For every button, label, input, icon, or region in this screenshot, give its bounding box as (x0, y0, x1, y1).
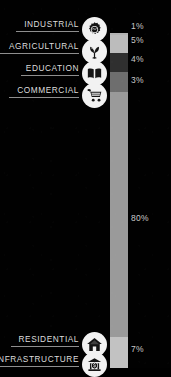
legend-rule-commercial (9, 97, 79, 98)
bar-segment-infrastructure (110, 337, 128, 368)
legend-item-education[interactable]: EDUCATION (0, 61, 108, 85)
bar-segment-residential (110, 92, 128, 337)
legend-rule-industrial (16, 31, 79, 32)
legend-item-agricultural[interactable]: AGRICULTURAL (0, 39, 108, 63)
legend-item-commercial[interactable]: COMMERCIAL (0, 83, 108, 107)
value-label-industrial: 1% (131, 22, 144, 31)
legend-rule-infrastructure (0, 366, 79, 367)
legend-rule-education (21, 75, 79, 76)
legend-item-infrastructure[interactable]: INFRASTRUCTURE (0, 352, 108, 376)
value-label-agricultural: 5% (131, 36, 144, 45)
value-label-infrastructure: 7% (131, 345, 144, 354)
value-label-education: 4% (131, 55, 144, 64)
legend-label-commercial: COMMERCIAL (17, 85, 79, 95)
legend-label-agricultural: AGRICULTURAL (9, 41, 79, 51)
value-label-commercial: 3% (131, 76, 144, 85)
value-label-residential: 80% (131, 214, 149, 223)
infrastructure-icon (82, 352, 107, 377)
legend-rule-residential (11, 346, 79, 347)
stacked-bar-chart (110, 33, 128, 368)
legend-label-infrastructure: INFRASTRUCTURE (0, 354, 79, 364)
bar-segment-agricultural (110, 35, 128, 53)
bar-segment-commercial (110, 72, 128, 92)
legend-item-industrial[interactable]: INDUSTRIAL (0, 17, 108, 41)
legend-label-industrial: INDUSTRIAL (24, 19, 79, 29)
legend-label-residential: RESIDENTIAL (19, 334, 79, 344)
legend-label-education: EDUCATION (26, 63, 79, 73)
shopping-cart-icon (82, 83, 107, 108)
bar-segment-education (110, 53, 128, 72)
legend-rule-agricultural (0, 53, 79, 54)
